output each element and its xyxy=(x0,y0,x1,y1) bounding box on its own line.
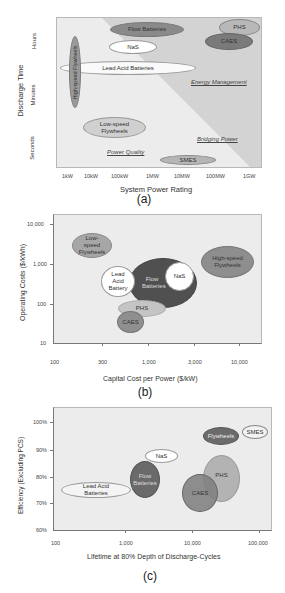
chart-b-xtick: 300 xyxy=(98,359,107,365)
chart-a-flow-batteries: Flow Batteries xyxy=(110,22,184,37)
chart-b-flow-batteries-label: Flow Batteries xyxy=(142,276,162,290)
tick-mark xyxy=(259,530,260,533)
tick-mark xyxy=(50,477,53,478)
tick-mark xyxy=(125,530,126,533)
chart-c-nas: NaS xyxy=(145,449,178,463)
chart-c-ytick: 80% xyxy=(36,474,47,480)
chart-c-xtick: 10,000 xyxy=(184,540,201,546)
chart-c-caption: (c) xyxy=(130,569,170,583)
chart-b-ytick: 1,000 xyxy=(33,261,47,267)
chart-a-xtick: 10MW xyxy=(174,173,190,179)
chart-b-low-speed-flywheels: Low-speed Flywheels xyxy=(72,233,112,258)
chart-c-smes: SMES xyxy=(242,425,268,439)
tick-mark xyxy=(50,304,53,305)
chart-a-high-speed-flywheels-label: High-speed Flywheels xyxy=(72,45,79,99)
chart-a-xtick: 1MW xyxy=(146,173,159,179)
chart-b-xtick: 10,000 xyxy=(231,359,248,365)
chart-c-ytick: 100% xyxy=(33,419,47,425)
chart-c-xlabel: Lifetime at 80% Depth of Discharge-Cycle… xyxy=(87,553,220,560)
tick-mark xyxy=(50,224,53,225)
chart-a-energy-management: Energy Management xyxy=(191,79,247,85)
chart-a-xtick: 1kW xyxy=(62,173,73,179)
chart-a-bridging-power: Bridging Power xyxy=(197,136,238,142)
tick-mark xyxy=(148,343,149,346)
chart-a-ylabel: Discharge Time xyxy=(16,61,25,121)
chart-a-smes: SMES xyxy=(160,155,216,165)
chart-a-ytick-seconds: Seconds xyxy=(29,136,35,159)
chart-b-xtick: 3,000 xyxy=(188,359,202,365)
chart-c-xtick: 100,000 xyxy=(248,540,268,546)
chart-b-caption: (b) xyxy=(125,385,165,399)
chart-a-xtick: 100kW xyxy=(111,173,128,179)
chart-b-ytick: 100 xyxy=(37,301,46,307)
chart-b-caes: CAES xyxy=(117,311,144,333)
tick-mark xyxy=(194,343,195,346)
chart-c-flywheels: Flywheels xyxy=(203,427,239,445)
chart-c-ytick: 90% xyxy=(36,447,47,453)
chart-a-caption: (a) xyxy=(124,192,164,206)
tick-mark xyxy=(102,343,103,346)
chart-c-flow-batteries: Flow Batteries xyxy=(130,461,160,498)
chart-a-high-speed-flywheels: High-speed Flywheels xyxy=(69,36,81,108)
tick-mark xyxy=(50,450,53,451)
chart-a-xtick: 10kW xyxy=(84,173,98,179)
chart-c-ylabel: Efficiency (Excluding PCS) xyxy=(17,436,24,516)
tick-mark xyxy=(192,530,193,533)
chart-c-xtick: 100 xyxy=(51,540,60,546)
chart-b-xlabel: Capital Cost per Power ($/kW) xyxy=(103,375,198,382)
chart-c-ytick: 60% xyxy=(36,527,47,533)
chart-c-ytick: 70% xyxy=(36,500,47,506)
tick-mark xyxy=(50,422,53,423)
chart-b-ylabel: Operating Costs ($/kWh) xyxy=(19,243,26,323)
chart-a-ytick-hours: Hours xyxy=(31,33,37,49)
tick-mark xyxy=(50,503,53,504)
chart-b-ytick: 10 xyxy=(40,340,46,346)
chart-c-plot-area xyxy=(53,407,272,531)
chart-a-xtick: 1GW xyxy=(243,173,256,179)
chart-b-high-speed-flywheels: High-speed Flywheels xyxy=(201,246,254,278)
chart-a-caes: CAES xyxy=(205,33,253,50)
chart-a-ytick-minutes: Minutes xyxy=(30,84,36,105)
chart-b-lead-acid: Lead Acid Battery xyxy=(101,266,135,297)
tick-mark xyxy=(50,264,53,265)
chart-a-xtick: 100MW xyxy=(206,173,225,179)
tick-mark xyxy=(239,343,240,346)
chart-c-caes: CAES xyxy=(182,474,218,512)
chart-b-nas: NaS xyxy=(165,262,194,291)
chart-b-xtick: 1,000 xyxy=(142,359,156,365)
chart-a-power-quality: Power Quality xyxy=(107,149,144,155)
chart-a-nas: NaS xyxy=(109,40,157,54)
chart-b-ytick: 10,000 xyxy=(27,221,44,227)
chart-c-lead-acid: Lead Acid Batteries xyxy=(61,482,131,498)
chart-c-phs-label: PHS xyxy=(215,472,227,479)
chart-a-low-speed-flywheels: Low-speed Flywheels xyxy=(83,117,146,138)
chart-b-xtick: 100 xyxy=(50,359,59,365)
chart-c-xtick: 1,000 xyxy=(119,540,133,546)
